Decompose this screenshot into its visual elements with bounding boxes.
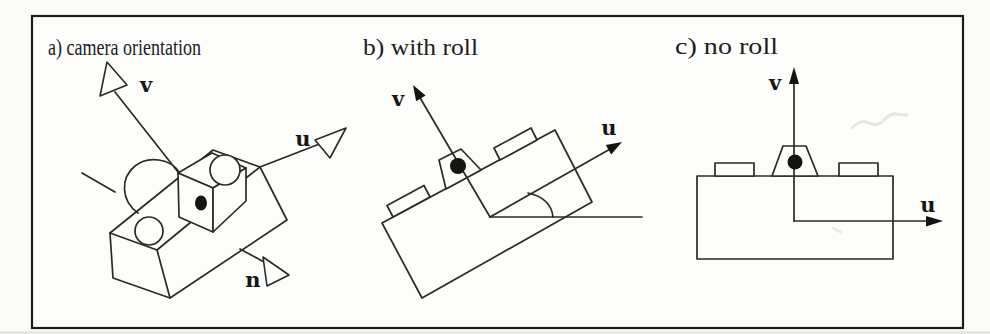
panel-b-title: b) with roll [363,35,478,60]
camera-body [697,176,893,259]
camera-bump-left [715,163,754,176]
panel-a-title: a) camera orientation [48,35,201,60]
v-axis-label: v [768,70,782,95]
figure-canvas: a) camera orientation v u n b) with [0,0,990,334]
shutter-dot [195,196,207,211]
panel-c-title: c) no roll [675,34,778,59]
v-axis-label: v [139,72,153,97]
shutter-dot [450,158,466,174]
u-axis-label: u [601,115,616,140]
camera-bump-right [839,163,878,176]
n-axis-label: n [245,267,260,292]
u-axis-label: u [295,126,310,151]
u-axis-label: u [920,192,935,217]
dial-circle-right [210,155,240,185]
dial-circle-left [135,217,163,245]
v-axis-label: v [391,86,405,111]
shutter-dot [788,155,803,170]
scanned-figure-page: a) camera orientation v u n b) with [0,0,990,334]
